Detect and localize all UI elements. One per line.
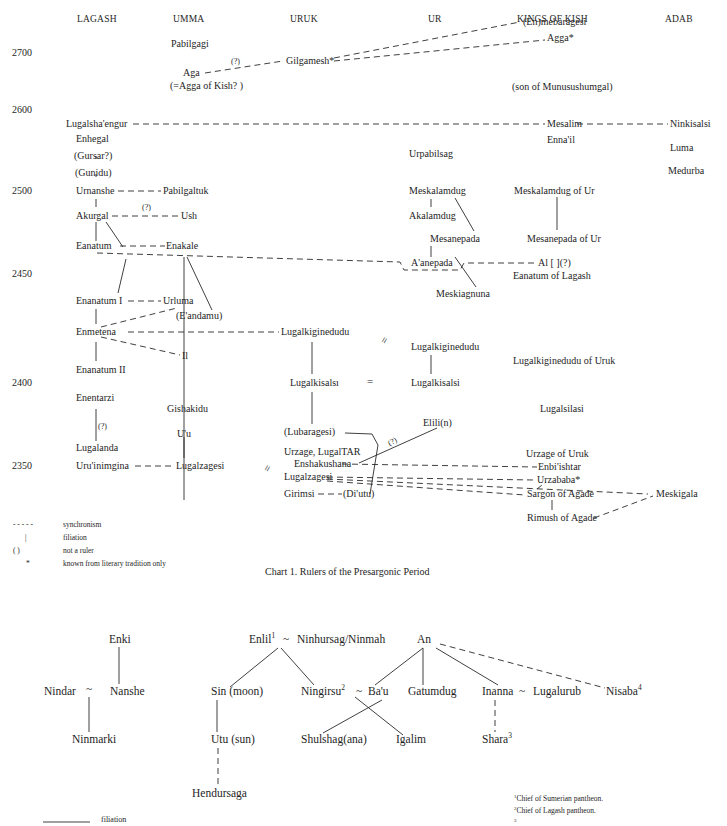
year-2700: 2700 bbox=[12, 47, 32, 58]
god-enki: Enki bbox=[109, 633, 131, 645]
uncertain-mark: (?) bbox=[142, 203, 151, 212]
equals-sign: = bbox=[377, 334, 391, 345]
ruler-gursar: (Gursar?) bbox=[74, 150, 112, 162]
ruler-mesanepada-of-ur: Mesanepada of Ur bbox=[527, 233, 601, 245]
ruler-enanatum-ii: Enanatum II bbox=[76, 364, 126, 376]
column-header-ur: UR bbox=[428, 14, 442, 24]
god-enlil: Enlil1 bbox=[249, 633, 275, 645]
equals-sign: = bbox=[367, 375, 373, 387]
footnote-1: 1Chief of Sumerian pantheon. bbox=[514, 794, 603, 803]
footnote-ref-3: 3 bbox=[508, 731, 512, 740]
ruler-gilgamesh: Gilgamesh* bbox=[286, 55, 334, 67]
legend-label-synchronism: synchronism bbox=[63, 520, 101, 529]
ruler-aga-note: (=Agga of Kish? ) bbox=[170, 80, 243, 92]
uncertain-mark: (?) bbox=[386, 435, 398, 447]
footnote-number: 3 bbox=[514, 818, 516, 823]
legend-label-filiation-2: filiation bbox=[101, 815, 126, 824]
god-ningirsu: Ningirsu2 bbox=[301, 685, 345, 697]
ruler-lugalshaengur: Lugalsha'engur bbox=[66, 118, 127, 130]
chart1-caption: Chart 1. Rulers of the Presargonic Perio… bbox=[265, 566, 430, 577]
ruler-meskalamdug: Meskalamdug bbox=[409, 185, 466, 197]
ruler-medurba: Medurba bbox=[668, 165, 704, 177]
ruler-diutu: (Di'utu) bbox=[343, 488, 374, 500]
ruler-lugalzagesi-umma: Lugalzagesi bbox=[176, 460, 224, 472]
god-nisaba: Nisaba4 bbox=[606, 685, 642, 697]
footnote-3: 3 bbox=[514, 818, 516, 826]
god-sin: Sin (moon) bbox=[211, 685, 263, 697]
ruler-akurgal: Akurgal bbox=[76, 210, 109, 222]
year-2600: 2600 bbox=[12, 104, 32, 115]
ruler-gunidu: (Gunidu) bbox=[75, 167, 112, 179]
god-enlil-name: Enlil bbox=[249, 633, 271, 645]
god-utu: Utu (sun) bbox=[211, 733, 255, 745]
ruler-lugalzagesi-uruk: Lugalzagesi bbox=[284, 471, 332, 483]
footnote-text: Chief of Lagash pantheon. bbox=[516, 806, 596, 815]
ruler-enhegal: Enhegal bbox=[76, 133, 109, 145]
god-ningirsu-name: Ningirsu bbox=[301, 685, 341, 697]
legend-label-not-a-ruler: not a ruler bbox=[63, 546, 94, 555]
ruler-ennail: Enna'il bbox=[547, 134, 575, 146]
ruler-urzage-lugaltar: Urzage, LugalTAR bbox=[284, 446, 360, 458]
ruler-lugalkiginedudu-uruk: Lugalkiginedudu bbox=[281, 326, 349, 338]
ruler-enshakushana: Enshakushana bbox=[294, 458, 351, 470]
ruler-pabilgagi: Pabilgagi bbox=[171, 38, 209, 50]
ruler-eandamu: (E'andamu) bbox=[176, 310, 222, 322]
ruler-ninkisalsi: Ninkisalsi bbox=[670, 118, 711, 130]
year-2350: 2350 bbox=[12, 460, 32, 471]
ruler-aanepada: A'anepada bbox=[411, 257, 453, 269]
legend-symbol-not-a-ruler: ( ) bbox=[13, 546, 20, 555]
tilde-ningirsu-bau: ~ bbox=[356, 685, 362, 697]
footnote-ref-1: 1 bbox=[271, 631, 275, 640]
ruler-akalamdug: Akalamdug bbox=[409, 210, 456, 222]
legend-symbol-filiation: | bbox=[25, 533, 27, 542]
ruler-al: Al [ ](?) bbox=[538, 257, 571, 269]
year-2400: 2400 bbox=[12, 377, 32, 388]
ruler-lugalkisalsi-ur: Lugalkisalsi bbox=[411, 377, 460, 389]
ruler-pabilgaltuk: Pabilgaltuk bbox=[163, 185, 209, 197]
ruler-urzababa: Urzababa* bbox=[537, 474, 580, 486]
year-2500: 2500 bbox=[12, 185, 32, 196]
god-gatumdug: Gatumdug bbox=[408, 685, 457, 697]
tilde-enlil-ninhursag: ~ bbox=[283, 633, 289, 645]
footnote-text: Chief of Sumerian pantheon. bbox=[516, 794, 603, 803]
god-inanna: Inanna bbox=[482, 685, 513, 697]
ruler-ush: Ush bbox=[181, 210, 197, 222]
footnote-2: 2Chief of Lagash pantheon. bbox=[514, 806, 596, 815]
ruler-urzage-of-uruk: Urzage of Uruk bbox=[526, 448, 589, 460]
column-header-lagash: LAGASH bbox=[77, 14, 117, 24]
year-2450: 2450 bbox=[12, 268, 32, 279]
legend-label-literary: known from literary tradition only bbox=[63, 559, 166, 568]
ruler-enanatum-i: Enanatum I bbox=[76, 295, 122, 307]
ruler-girimsi: Girimsi bbox=[284, 488, 315, 500]
ruler-son-of-munusushumgal: (son of Munusushumgal) bbox=[512, 81, 613, 93]
legend-label-filiation: filiation bbox=[63, 533, 87, 542]
uncertain-mark: (?) bbox=[98, 422, 107, 431]
god-shulshag: Shulshag(ana) bbox=[301, 733, 367, 745]
ruler-lugalkiginedudu-ur: Lugalkiginedudu bbox=[411, 341, 479, 353]
footnote-ref-2: 2 bbox=[341, 683, 345, 692]
equals-sign: = bbox=[260, 462, 274, 473]
ruler-eanatum-of-lagash: Eanatum of Lagash bbox=[513, 270, 591, 282]
ruler-enakale: Enakale bbox=[166, 240, 198, 252]
ruler-meskigala: Meskigala bbox=[656, 488, 698, 500]
column-header-uruk: URUK bbox=[290, 14, 318, 24]
tilde-nindar-nanshe: ~ bbox=[86, 683, 92, 695]
ruler-lugalkisalsi-uruk: Lugalkisalsı bbox=[290, 377, 339, 389]
ruler-lubaragesi: (Lubaragesi) bbox=[284, 426, 335, 438]
column-header-adab: ADAB bbox=[665, 14, 693, 24]
ruler-elilin: Elili(n) bbox=[423, 417, 452, 429]
footnote-ref-4: 4 bbox=[638, 683, 642, 692]
god-lugalurub: Lugalurub bbox=[533, 685, 581, 697]
ruler-meskalamdug-of-ur: Meskalamdug of Ur bbox=[514, 185, 595, 197]
ruler-sargon-of-agade: Sargon of Agade bbox=[527, 488, 594, 500]
ruler-mesalim: Mesalim bbox=[547, 118, 582, 130]
legend-symbol-literary: * bbox=[26, 559, 30, 568]
god-nanshe: Nanshe bbox=[110, 685, 145, 697]
ruler-lugalanda: Lugalanda bbox=[76, 442, 118, 454]
god-bau: Ba'u bbox=[368, 685, 389, 697]
ruler-lugalkiginedudu-of-uruk: Lugalkiginedudu of Uruk bbox=[513, 355, 615, 367]
god-an: An bbox=[417, 633, 431, 645]
god-nisaba-name: Nisaba bbox=[606, 685, 638, 697]
ruler-enbiishtar: Enbi'ishtar bbox=[538, 461, 581, 473]
ruler-enmebaragesi: (En)mebaragesi bbox=[523, 16, 586, 28]
